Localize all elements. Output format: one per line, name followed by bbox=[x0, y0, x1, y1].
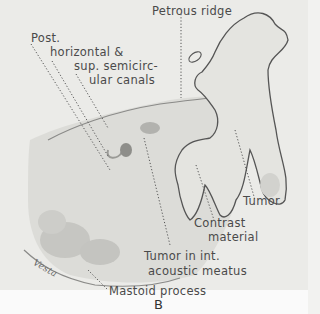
label-meatus-line2: acoustic meatus bbox=[148, 265, 247, 278]
label-contrast-line1: Contrast bbox=[194, 217, 246, 230]
label-tumor: Tumor bbox=[243, 195, 280, 208]
label-meatus-line1: Tumor in int. bbox=[144, 250, 220, 263]
semicircular-canals bbox=[120, 143, 132, 157]
label-canals-line2: horizontal & bbox=[50, 46, 124, 59]
label-canals-line3: sup. semicirc- bbox=[74, 60, 158, 73]
label-petrous-ridge: Petrous ridge bbox=[152, 5, 232, 18]
label-canals-line4: ular canals bbox=[89, 74, 155, 87]
label-contrast-line2: material bbox=[208, 231, 258, 244]
panel-label: B bbox=[154, 297, 163, 312]
label-canals-line1: Post. bbox=[31, 32, 60, 45]
